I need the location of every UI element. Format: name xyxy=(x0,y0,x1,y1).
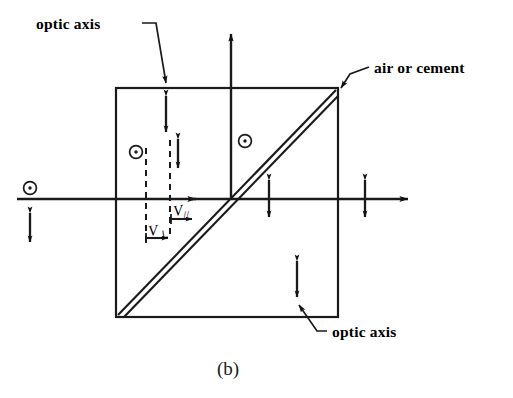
optical-prism-diagram: V⊥ V// optic axis air or cement optic ax… xyxy=(0,0,513,398)
figure-page: V⊥ V// optic axis air or cement optic ax… xyxy=(0,0,513,398)
circle-dot-polarization-symbol-outside-left xyxy=(24,182,37,195)
circle-dot-polarization-symbol-inside-right xyxy=(239,135,252,148)
circle-dot-polarization-symbol-inside-left xyxy=(130,146,143,159)
label-air-or-cement: air or cement xyxy=(374,59,465,76)
figure-caption: (b) xyxy=(217,358,239,380)
diagonal-interface-gap xyxy=(118,90,338,317)
label-optic-axis-bottom: optic axis xyxy=(332,323,396,340)
label-optic-axis-top: optic axis xyxy=(36,15,100,32)
v-perpendicular-label: V⊥ xyxy=(147,220,169,242)
leader-line-air-or-cement xyxy=(341,67,369,88)
leader-line-optic-axis-top xyxy=(142,23,166,83)
